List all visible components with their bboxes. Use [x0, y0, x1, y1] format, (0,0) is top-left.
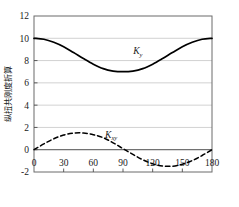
- y-tick-label: -2: [21, 167, 29, 177]
- y-tick-label: 2: [24, 123, 29, 133]
- y-tick-label: 12: [20, 11, 30, 21]
- y-tick-label: 4: [24, 101, 29, 111]
- x-tick-label: 90: [118, 158, 128, 168]
- y-tick-label: 8: [24, 56, 29, 66]
- y-tick-label: 0: [24, 145, 29, 155]
- x-tick-label: 180: [205, 158, 220, 168]
- y-axis-label: 纵扭共刚度折算: [3, 66, 13, 122]
- x-tick-label: 0: [32, 158, 37, 168]
- chart-figure: -2024681012 0306090120150180 KyKxy 纵扭共刚度…: [0, 0, 239, 207]
- x-tick-label: 60: [89, 158, 99, 168]
- y-tick-label: 10: [20, 34, 30, 44]
- y-tick-label: 6: [24, 78, 29, 88]
- y-axis-label-text: 纵扭共刚度折算: [3, 66, 13, 122]
- chart-canvas: -2024681012 0306090120150180 KyKxy 纵扭共刚度…: [0, 0, 239, 207]
- plot-background: [34, 16, 212, 172]
- x-tick-label: 30: [59, 158, 69, 168]
